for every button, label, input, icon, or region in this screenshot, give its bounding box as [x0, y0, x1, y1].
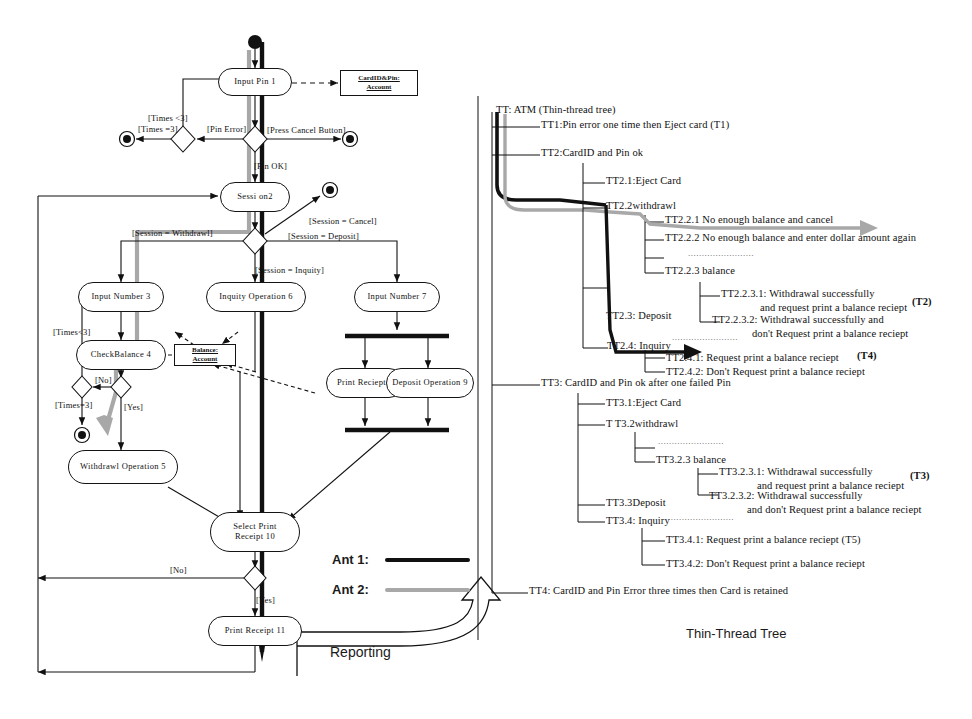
tree-item-tt2-2-2: TT2.2.2 No enough balance and enter doll…	[665, 232, 916, 243]
activity-label: Deposit Operation 9	[392, 378, 468, 388]
tree-item-tt2-4-1: TT2.4.1: Request print a balance reciept	[666, 352, 839, 363]
guard-pin-error: [Pin Error]	[207, 124, 246, 134]
object-balance-account: Balance: Account	[174, 344, 236, 366]
tree-caption: Thin-Thread Tree	[686, 626, 786, 641]
activity-label: Print Reciept 8	[337, 378, 393, 388]
object-label: Balance: Account	[192, 346, 218, 364]
tree-tag-t4: (T4)	[857, 350, 877, 361]
guard-session-cancel: [Session = Cancel]	[309, 216, 377, 226]
guard-times-eq3-balance: [Times=3]	[55, 400, 92, 410]
tree-item-tt2-2-3-1: TT2.2.3.1: Withdrawal successfully	[721, 288, 875, 299]
tree-item-tt3-4-1: TT3.4.1: Request print a balance reciept…	[666, 534, 861, 545]
tree-item-tt2: TT2:CardID and Pin ok	[541, 147, 643, 158]
guard-yes-print: [Yes]	[256, 595, 275, 605]
activity-label: Input Number 7	[367, 292, 426, 302]
activity-input-number-7[interactable]: Input Number 7	[354, 282, 440, 312]
activity-print-receipt-11[interactable]: Print Receipt 11	[208, 616, 302, 646]
tree-item-tt1: TT1:Pin error one time then Eject card (…	[541, 119, 729, 130]
tree-root-label: TT: ATM (Thin-thread tree)	[496, 104, 616, 115]
guard-times-lt3-balance: [Times<3]	[53, 327, 90, 337]
tree-item-tt2-3: TT2.3: Deposit	[606, 310, 672, 321]
guard-yes-balance: [Yes]	[124, 402, 143, 412]
guard-press-cancel-button: [Press Cancel Button]	[267, 125, 346, 135]
activity-label: CheckBalance 4	[91, 350, 151, 360]
activity-input-number-3[interactable]: Input Number 3	[78, 282, 164, 312]
guard-session-inquity: [Session = Inquity]	[255, 265, 324, 275]
activity-withdrawl-operation[interactable]: Withdrawl Operation 5	[68, 450, 178, 484]
legend-ant1-label: Ant 1:	[332, 552, 369, 567]
activity-inquity-operation[interactable]: Inquity Operation 6	[206, 282, 306, 312]
guard-pin-ok: [Pin OK]	[254, 161, 287, 171]
tree-item-tt3-2: T T3.2withdrawl	[606, 418, 678, 429]
guard-no-balance: [No]	[95, 375, 112, 385]
activity-label: Withdrawl Operation 5	[80, 462, 166, 472]
tree-item-tt3-1: TT3.1:Eject Card	[606, 397, 681, 408]
activity-session[interactable]: Sessi on2	[220, 182, 290, 212]
figure-canvas: Input Pin 1 Sessi on2 Input Number 3 Che…	[0, 0, 972, 719]
tree-item-tt2-4: TT2.4: Inquiry	[607, 340, 671, 351]
tree-item-tt2-2-3-2: TT2.2.3.2: Withdrawal successfully and	[712, 314, 884, 325]
activity-label: Print Receipt 11	[225, 626, 286, 636]
tree-item-tt3-2-3-1: TT3.2.3.1: Withdrawal successfully	[719, 466, 873, 477]
guard-session-deposit: [Session = Deposit]	[288, 231, 359, 241]
reporting-label: Reporting	[330, 644, 391, 660]
guard-times-lt3-top: [Times <3]	[148, 113, 188, 123]
tree-item-tt3-2-3-2-cont: and don't Request print a balance reciep…	[747, 504, 922, 515]
tree-dots-tt3-3: ........................	[668, 512, 734, 522]
tree-item-tt3-4: TT3.4: Inquiry	[606, 515, 670, 526]
activity-label: Input Pin 1	[234, 77, 276, 87]
activity-deposit-operation-9[interactable]: Deposit Operation 9	[386, 368, 474, 398]
tree-tag-t2: (T2)	[912, 296, 932, 307]
tree-item-tt3-2-3-2: TT3.2.3.2: Withdrawal successfully	[709, 490, 863, 501]
activity-label: Sessi on2	[237, 192, 273, 202]
legend-ant2-label: Ant 2:	[332, 582, 369, 597]
tree-item-tt4: TT4: CardID and Pin Error three times th…	[529, 585, 788, 596]
guard-session-withdrawl: [Session = Withdrawl]	[132, 228, 213, 238]
tree-tag-t3: (T3)	[910, 470, 930, 481]
guard-times-eq3-top: [Times =3]	[138, 124, 178, 134]
activity-label: Inquity Operation 6	[219, 292, 293, 302]
activity-label: Select Print Receipt 10	[233, 522, 277, 541]
activity-check-balance[interactable]: CheckBalance 4	[76, 340, 166, 370]
tree-item-tt3: TT3: CardID and Pin ok after one failed …	[541, 377, 731, 388]
tree-dots-tt2-2: ........................	[688, 248, 754, 258]
tree-item-tt2-1: TT2.1:Eject Card	[606, 175, 681, 186]
tree-item-tt2-2-3-1-cont: and request print a balance reciept	[760, 302, 907, 313]
tree-item-tt3-3: TT3.3Deposit	[606, 497, 666, 508]
object-label: CardID&Pin: Account	[358, 74, 400, 92]
legend-ant1-swatch	[385, 558, 470, 562]
legend-ant2-swatch	[385, 588, 470, 592]
activity-select-print-receipt[interactable]: Select Print Receipt 10	[210, 512, 300, 552]
activity-input-pin[interactable]: Input Pin 1	[218, 68, 292, 96]
tree-dots-tt2-3: ........................	[672, 332, 738, 342]
guard-no-print: [No]	[170, 565, 187, 575]
tree-item-tt2-4-2: TT2.4.2: Don't Request print a balance r…	[666, 366, 865, 377]
tree-item-tt3-2-3: TT3.2.3 balance	[656, 454, 726, 465]
tree-item-tt2-2-3: TT2.2.3 balance	[665, 265, 735, 276]
tree-dots-tt3-2: ........................	[658, 436, 724, 446]
tree-item-tt2-2: TT2.2withdrawl	[606, 200, 676, 211]
object-cardid-pin-account: CardID&Pin: Account	[340, 70, 418, 96]
activity-label: Input Number 3	[91, 292, 150, 302]
tree-item-tt2-2-3-2-cont: don't Request print a balance reciept	[752, 328, 908, 339]
tree-item-tt2-2-1: TT2.2.1 No enough balance and cancel	[665, 214, 833, 225]
tree-item-tt3-4-2: TT3.4.2: Don't Request print a balance r…	[666, 558, 865, 569]
